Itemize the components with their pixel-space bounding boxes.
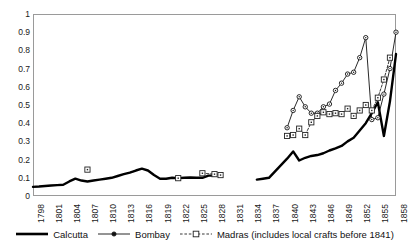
data-point-center — [335, 112, 336, 113]
x-tick-1828: 1828 — [218, 204, 226, 223]
x-tick-1855: 1855 — [381, 204, 389, 223]
data-point-center — [353, 72, 354, 73]
data-point-center — [377, 97, 378, 98]
data-point-center — [286, 135, 287, 136]
series-line — [33, 169, 215, 187]
data-point-center — [311, 112, 312, 113]
x-tick-1840: 1840 — [291, 204, 299, 223]
data-point-center — [371, 110, 372, 111]
x-tick-1819: 1819 — [164, 204, 172, 223]
data-point-center — [329, 103, 330, 104]
x-tick-1804: 1804 — [73, 204, 81, 223]
data-point-center — [371, 119, 372, 120]
chart-container: 00.10.20.30.40.50.60.70.80.91 1798180118… — [0, 0, 409, 248]
data-point-center — [311, 122, 312, 123]
x-tick-1846: 1846 — [327, 204, 335, 223]
data-point-center — [87, 169, 88, 170]
series-line — [287, 58, 390, 136]
data-point-center — [359, 57, 360, 58]
data-point-center — [347, 73, 348, 74]
data-point-center — [292, 134, 293, 135]
x-tick-1807: 1807 — [91, 204, 99, 223]
data-point-center — [329, 113, 330, 114]
data-point-center — [178, 177, 179, 178]
solid-thick-line-key — [15, 229, 49, 239]
data-point-center — [286, 127, 287, 128]
legend-item-calcutta: Calcutta — [15, 229, 88, 240]
data-point-center — [299, 96, 300, 97]
data-point-center — [389, 68, 390, 69]
data-point-center — [383, 93, 384, 94]
data-point-center — [305, 134, 306, 135]
data-point-center — [395, 32, 396, 33]
data-point-center — [377, 117, 378, 118]
x-tick-1834: 1834 — [254, 204, 262, 223]
data-point-center — [365, 37, 366, 38]
data-point-center — [335, 90, 336, 91]
data-point-center — [341, 113, 342, 114]
x-tick-1810: 1810 — [109, 204, 117, 223]
line-circle-key — [97, 229, 131, 239]
data-point-center — [323, 112, 324, 113]
data-point-center — [317, 115, 318, 116]
data-point-center — [383, 79, 384, 80]
x-tick-1837: 1837 — [272, 204, 280, 223]
x-tick-1858: 1858 — [400, 204, 408, 223]
legend-item-madras: Madras (includes local crafts before 184… — [179, 229, 394, 240]
data-point-center — [389, 57, 390, 58]
x-tick-1816: 1816 — [145, 204, 153, 223]
legend-label-madras: Madras (includes local crafts before 184… — [217, 229, 394, 240]
legend-label-calcutta: Calcutta — [53, 229, 88, 240]
x-tick-1822: 1822 — [182, 204, 190, 223]
x-tick-1813: 1813 — [127, 204, 135, 223]
data-point-center — [299, 128, 300, 129]
x-tick-1831: 1831 — [236, 204, 244, 223]
data-point-center — [353, 115, 354, 116]
chart-legend: Calcutta Bombay Madras (includes local c… — [0, 222, 409, 246]
x-tick-1825: 1825 — [200, 204, 208, 223]
x-tick-1801: 1801 — [55, 204, 63, 223]
data-point-center — [323, 106, 324, 107]
data-point-center — [220, 174, 221, 175]
data-point-center — [202, 173, 203, 174]
data-point-center — [347, 108, 348, 109]
data-point-center — [359, 110, 360, 111]
data-point-center — [365, 104, 366, 105]
data-point-center — [214, 173, 215, 174]
data-point-center — [305, 106, 306, 107]
data-point-center — [292, 110, 293, 111]
data-point-center — [341, 82, 342, 83]
x-tick-1843: 1843 — [309, 204, 317, 223]
x-tick-1849: 1849 — [345, 204, 353, 223]
x-tick-1852: 1852 — [363, 204, 371, 223]
dashed-square-key — [179, 229, 213, 239]
legend-label-bombay: Bombay — [135, 229, 170, 240]
legend-item-bombay: Bombay — [97, 229, 170, 240]
x-tick-1798: 1798 — [37, 204, 45, 223]
